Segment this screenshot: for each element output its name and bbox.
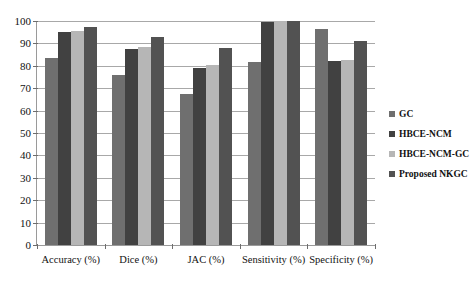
y-axis-tick-label: 0 [26, 240, 32, 251]
x-axis-tick-mark [37, 244, 38, 249]
bar [193, 68, 206, 245]
bar [261, 22, 274, 245]
bar [180, 94, 193, 245]
bar [151, 37, 164, 245]
bar-group [172, 21, 240, 245]
legend-item[interactable]: Proposed NKGC [389, 164, 475, 184]
bar [84, 27, 97, 245]
bar [354, 41, 367, 245]
y-axis-tick-label: 20 [20, 195, 31, 206]
bar [206, 65, 219, 245]
bar [58, 32, 71, 245]
bar-group [307, 21, 375, 245]
bar-group [105, 21, 173, 245]
bar [112, 75, 125, 245]
legend-item-label: HBCE-NCM [399, 129, 452, 139]
bar-group [37, 21, 105, 245]
legend-swatch-icon [389, 151, 395, 157]
plot-area: 1009080706050403020100Accuracy (%)Dice (… [36, 21, 375, 246]
bar [274, 21, 287, 245]
bar-group [240, 21, 308, 245]
legend-item[interactable]: GC [389, 104, 475, 124]
chart-legend: GCHBCE-NCMHBCE-NCM-GCProposed NKGC [389, 104, 475, 184]
bar [341, 60, 354, 245]
bar [328, 61, 341, 245]
legend-swatch-icon [389, 171, 395, 177]
bar [219, 48, 232, 245]
legend-swatch-icon [389, 131, 395, 137]
legend-item[interactable]: HBCE-NCM [389, 124, 475, 144]
bar [71, 31, 84, 245]
y-axis-tick-label: 30 [20, 172, 31, 183]
bar-chart-figure: 1009080706050403020100Accuracy (%)Dice (… [0, 0, 476, 284]
x-axis-tick-label: Dice (%) [119, 254, 157, 265]
y-axis-tick-label: 80 [20, 60, 31, 71]
x-axis-tick-label: JAC (%) [187, 254, 224, 265]
x-axis-tick-label: Sensitivity (%) [242, 254, 305, 265]
y-axis-tick-label: 50 [20, 128, 31, 139]
bar [138, 47, 151, 245]
y-axis-tick-label: 70 [20, 83, 31, 94]
y-axis-tick-label: 100 [15, 16, 32, 27]
legend-item-label: Proposed NKGC [399, 169, 468, 179]
bar [315, 29, 328, 245]
legend-item-label: GC [399, 109, 413, 119]
legend-swatch-icon [389, 111, 395, 117]
x-axis-tick-mark [375, 244, 376, 249]
y-axis-tick-label: 60 [20, 105, 31, 116]
bar [248, 62, 261, 245]
y-axis-tick-label: 40 [20, 150, 31, 161]
bar [45, 58, 58, 245]
bar [125, 49, 138, 245]
y-axis-tick-label: 90 [20, 38, 31, 49]
y-axis-tick-label: 10 [20, 217, 31, 228]
x-axis-tick-label: Specificity (%) [309, 254, 373, 265]
bar [287, 21, 300, 245]
legend-item[interactable]: HBCE-NCM-GC [389, 144, 475, 164]
legend-item-label: HBCE-NCM-GC [399, 149, 469, 159]
x-axis-tick-label: Accuracy (%) [42, 254, 101, 265]
